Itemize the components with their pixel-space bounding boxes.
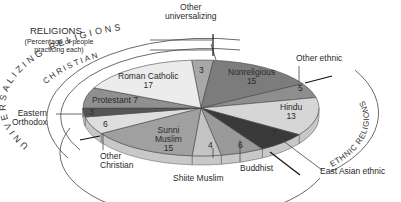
label-nonreligious: Nonreligious15 xyxy=(228,68,275,86)
svg-text:CHRISTIAN: CHRISTIAN xyxy=(41,50,100,85)
label-buddhist: Buddhist xyxy=(240,164,273,173)
label-east-asian-ethnic: East Asian ethnic xyxy=(320,167,385,176)
label-eastern-orthodox: EasternOrthodox xyxy=(12,109,47,127)
label-roman-catholic: Roman Catholic17 xyxy=(118,72,178,90)
label-other-universalizing: Otheruniversalizing xyxy=(165,3,217,21)
value-eastern-orthodox: 3 xyxy=(89,108,94,117)
value-other-ethnic: 5 xyxy=(298,84,303,93)
religions-pie-diagram: UNIVERSALIZING RELIGIONS CHRISTIAN ETHNI… xyxy=(0,0,401,202)
value-other-universalizing: 3 xyxy=(199,66,204,75)
value-east-asian-ethnic: 7 xyxy=(272,129,277,138)
ethnic-arc-text: ETHNIC RELIGIONS xyxy=(328,99,371,169)
value-shiite-muslim: 4 xyxy=(208,141,213,150)
value-other-christian: 6 xyxy=(103,120,108,129)
chart-subtitle: (Percentage of people practicing each) xyxy=(18,38,100,54)
label-other-ethnic: Other ethnic xyxy=(296,54,342,63)
label-other-christian: OtherChristian xyxy=(100,152,134,170)
pie-side xyxy=(192,155,221,165)
svg-text:ETHNIC RELIGIONS: ETHNIC RELIGIONS xyxy=(328,99,371,169)
chart-title: RELIGIONS xyxy=(30,26,82,35)
label-sunni-muslim: SunniMuslim15 xyxy=(155,126,182,153)
label-shiite-muslim: Shiite Muslim xyxy=(173,174,224,183)
value-buddhist: 6 xyxy=(238,141,243,150)
label-hindu: Hindu13 xyxy=(280,103,302,121)
christian-arc-text: CHRISTIAN xyxy=(41,50,100,85)
label-protestant: Protestant 7 xyxy=(92,96,138,105)
